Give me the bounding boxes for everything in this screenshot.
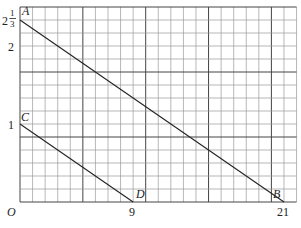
svg-text:1: 1 xyxy=(10,8,15,18)
svg-text:2: 2 xyxy=(2,14,8,28)
x-tick-21: 21 xyxy=(277,205,289,219)
point-label-d: D xyxy=(135,187,145,201)
origin-label: O xyxy=(7,205,16,219)
y-tick-2-1-3: 2 1 3 xyxy=(2,8,16,29)
grid xyxy=(20,7,297,202)
y-tick-1: 1 xyxy=(8,118,14,132)
x-tick-9: 9 xyxy=(129,205,135,219)
svg-text:3: 3 xyxy=(10,19,15,29)
point-label-a: A xyxy=(21,4,30,18)
point-label-c: C xyxy=(21,110,30,124)
point-label-b: B xyxy=(273,187,281,201)
coordinate-diagram: O 9 21 1 2 2 1 3 A B C D xyxy=(0,0,301,228)
y-tick-2: 2 xyxy=(8,40,14,54)
